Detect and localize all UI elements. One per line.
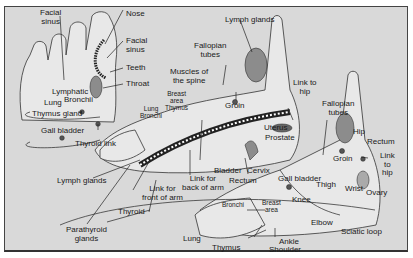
label-muscles-spine: Muscles of the spine <box>170 68 208 85</box>
label-breast-area-bottom: Breast area <box>262 199 281 213</box>
label-facial-sinus-top: Facial sinus <box>40 9 61 26</box>
label-link-front-arm: Link for front of arm <box>142 185 183 202</box>
label-rectum-mid: Rectum <box>229 177 257 186</box>
label-shoulder: Shoulder <box>269 246 301 255</box>
label-groin-top: Groin <box>225 102 245 111</box>
label-thymus-bottom: Thymus <box>212 244 240 253</box>
label-elbow: Elbow <box>311 219 333 228</box>
gall-bladder-bottom-dot <box>287 185 292 190</box>
label-facial-sinus-right: Facial sinus <box>126 37 147 54</box>
label-thymus-gland: Thymus gland <box>32 110 82 119</box>
label-thigh: Thigh <box>316 181 336 190</box>
top-foot <box>20 12 117 122</box>
groin-dot-right <box>340 149 345 154</box>
label-link-hip-right: Link to hip <box>380 152 395 178</box>
label-lung-bronchi-mid: Lung Bronchi <box>140 105 162 119</box>
label-thyroid-link: Thyroid link <box>75 140 116 149</box>
label-parathyroid-glands: Parathyroid glands <box>66 226 107 243</box>
label-gall-bladder-left: Gall bladder <box>41 127 84 136</box>
label-prostate: Prostate <box>265 134 295 143</box>
label-link-back-arm: Link for back of arm <box>182 175 224 192</box>
label-breast-area-thymus: Breast area Thymus <box>165 90 188 111</box>
label-bronchi-bottom: Bronchi <box>222 201 244 208</box>
label-nose: Nose <box>126 10 145 19</box>
label-ovary: Ovary <box>366 189 387 198</box>
label-sciatic-loop: Sciatic loop <box>341 228 382 237</box>
label-lung-bottom: Lung <box>183 235 201 244</box>
hip-organ <box>336 113 354 143</box>
label-lung-top: Lung <box>44 99 62 108</box>
label-bladder: Bladder <box>214 167 242 176</box>
label-groin-right: Groin <box>333 155 353 164</box>
gall-bladder-dot <box>60 136 65 141</box>
label-lymph-glands-top: Lymph glands <box>225 16 275 25</box>
label-link-hip-top: Link to hip <box>293 79 317 96</box>
label-wrist: Wrist <box>345 185 363 194</box>
label-knee: Knee <box>292 196 311 205</box>
label-fallopian-tubes-top: Fallopian tubes <box>194 42 226 59</box>
label-gall-bladder-bottom: Gall bladder <box>278 175 321 184</box>
label-rectum-right: Rectum <box>367 138 395 147</box>
label-hip: Hip <box>353 128 365 137</box>
label-fallopian-tubes-right: Fallopian tubes <box>322 100 354 117</box>
label-throat: Throat <box>126 80 149 89</box>
label-bronchii: Bronchii <box>64 96 93 105</box>
label-uterus: Uterus <box>264 124 288 133</box>
lymph-gland-organ <box>245 48 267 82</box>
label-teeth: Teeth <box>126 64 146 73</box>
label-cervix: Cervix <box>247 167 270 176</box>
label-lymph-glands-left: Lymph glands <box>57 177 107 186</box>
label-thyroid: Thyroid <box>118 208 145 217</box>
